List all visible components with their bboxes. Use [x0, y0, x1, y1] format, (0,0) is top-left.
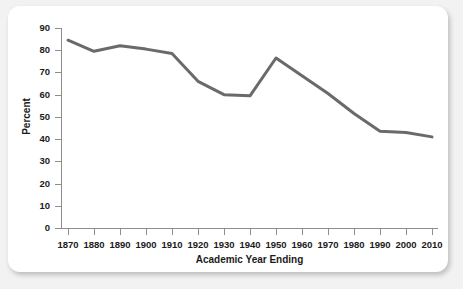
series-line-chart [8, 6, 448, 272]
x-axis-title: Academic Year Ending [61, 254, 438, 265]
chart-panel: Percent 9080706050403020100 187018801890… [8, 6, 448, 272]
series-line-percent [68, 40, 432, 137]
